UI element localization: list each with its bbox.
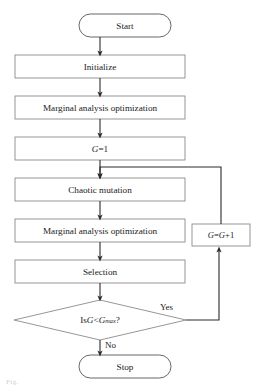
node-marginal-2-shape — [15, 219, 185, 242]
figure-caption: Fig. — [6, 378, 19, 386]
node-decision-shape — [14, 300, 186, 340]
node-selection-shape — [15, 260, 185, 283]
node-marginal-1-shape — [15, 96, 185, 119]
node-g-init-shape — [15, 137, 185, 160]
node-increment-shape — [192, 224, 250, 246]
node-initialize-shape — [15, 55, 185, 78]
node-stop-shape — [79, 355, 171, 378]
node-start-shape — [79, 14, 171, 37]
node-chaotic-shape — [15, 178, 185, 201]
edge-decision-yes-to-increment — [186, 250, 219, 321]
flowchart-canvas: Start Initialize Marginal analysis optim… — [0, 0, 260, 392]
flowchart-graphics — [0, 0, 260, 392]
